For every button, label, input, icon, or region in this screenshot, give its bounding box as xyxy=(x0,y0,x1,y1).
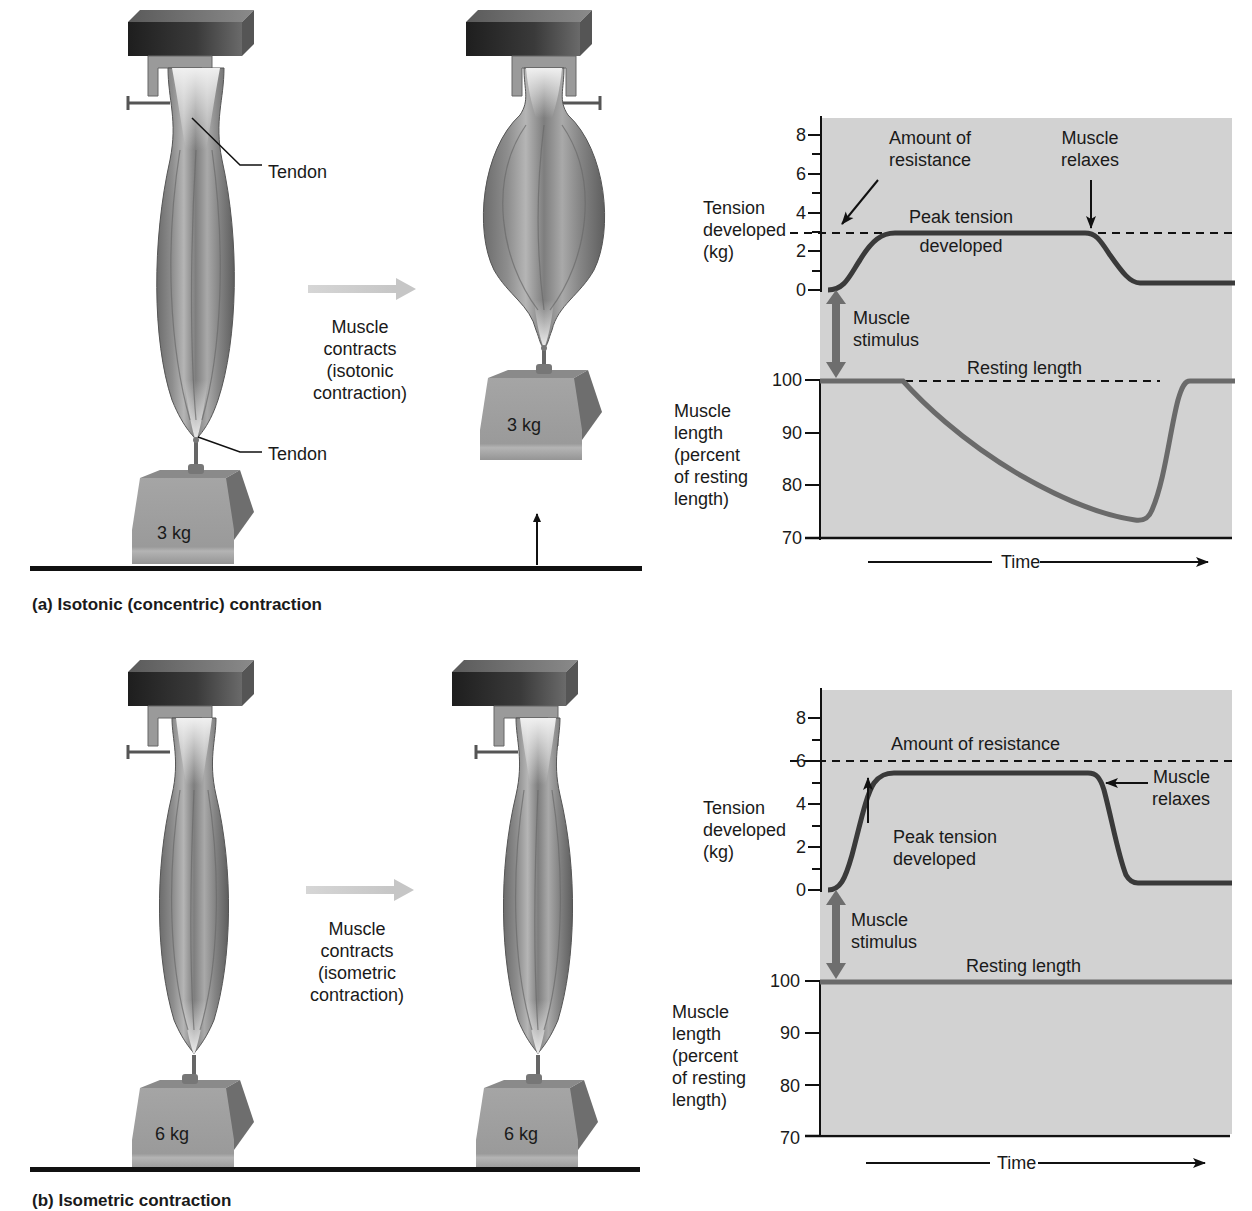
weight-6kg-icon xyxy=(476,1074,598,1170)
ytick: 4 xyxy=(766,203,806,223)
support-block-icon xyxy=(128,10,254,56)
ytick: 90 xyxy=(760,1023,800,1043)
panel-caption: (b) Isometric contraction xyxy=(32,1191,231,1211)
transition-label: Muscle contracts (isometric contraction) xyxy=(282,918,432,1006)
transition-arrow-icon xyxy=(308,278,416,300)
relaxes-annotation: Muscle relaxes xyxy=(1040,127,1140,171)
resistance-annotation: Amount of resistance xyxy=(870,127,990,171)
resistance-annotation: Amount of resistance xyxy=(891,733,1060,755)
muscle-icon xyxy=(159,718,228,1082)
stimulus-annotation: Muscle stimulus xyxy=(851,909,917,953)
isometric-illustration xyxy=(0,600,660,1201)
muscle-icon xyxy=(503,718,572,1082)
ground-line xyxy=(30,566,642,571)
ytick: 4 xyxy=(766,794,806,814)
ytick: 2 xyxy=(766,837,806,857)
isotonic-chart xyxy=(660,100,1252,590)
ytick: 6 xyxy=(766,164,806,184)
support-block-icon xyxy=(452,660,578,706)
ytick: 0 xyxy=(766,280,806,300)
weight-3kg-icon xyxy=(132,464,254,564)
isometric-chart xyxy=(660,685,1252,1185)
peak-annotation: Peak tension developed xyxy=(893,826,997,870)
ytick: 100 xyxy=(760,971,800,991)
ytick: 90 xyxy=(762,423,802,443)
support-block-icon xyxy=(466,10,592,56)
ytick: 8 xyxy=(766,708,806,728)
support-block-icon xyxy=(128,660,254,706)
ytick: 80 xyxy=(760,1076,800,1096)
weight-3kg-icon xyxy=(480,364,602,460)
weight-label: 3 kg xyxy=(157,522,191,544)
muscle-relaxed-icon xyxy=(157,68,235,472)
isotonic-illustration xyxy=(0,0,660,600)
resting-length-label: Resting length xyxy=(966,955,1081,977)
transition-arrow-icon xyxy=(306,879,414,901)
muscle-contracted-icon xyxy=(483,68,604,372)
weight-label: 6 kg xyxy=(504,1123,538,1145)
ytick: 0 xyxy=(766,880,806,900)
ytick: 6 xyxy=(766,751,806,771)
ytick: 8 xyxy=(766,125,806,145)
time-xlabel: Time xyxy=(997,1152,1036,1174)
transition-label: Muscle contracts (isotonic contraction) xyxy=(290,316,430,404)
length-ylabel: Muscle length (percent of resting length… xyxy=(674,400,748,510)
ytick: 70 xyxy=(760,1128,800,1148)
resting-length-label: Resting length xyxy=(967,357,1082,379)
ytick: 100 xyxy=(762,370,802,390)
ytick: 2 xyxy=(766,241,806,261)
weight-6kg-icon xyxy=(132,1074,254,1170)
ytick: 80 xyxy=(762,475,802,495)
stimulus-annotation: Muscle stimulus xyxy=(853,307,919,351)
relaxes-annotation: Muscle relaxes xyxy=(1152,766,1210,810)
peak-annotation: Peak tension developed xyxy=(896,206,1026,257)
tendon-label-bottom: Tendon xyxy=(268,443,327,465)
ground-line xyxy=(30,1167,640,1172)
weight-label: 3 kg xyxy=(507,414,541,436)
length-ylabel: Muscle length (percent of resting length… xyxy=(672,1001,746,1111)
time-xlabel: Time xyxy=(1001,551,1040,573)
ytick: 70 xyxy=(762,528,802,548)
weight-label: 6 kg xyxy=(155,1123,189,1145)
tendon-label-top: Tendon xyxy=(268,161,327,183)
